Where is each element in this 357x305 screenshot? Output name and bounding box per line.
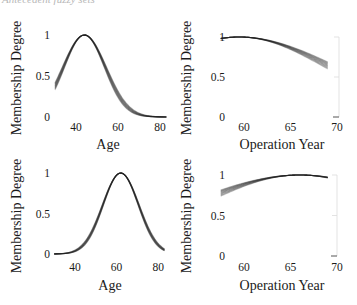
membership-curve xyxy=(54,173,164,254)
x-axis-label: Age xyxy=(98,278,121,293)
x-tick-label: 60 xyxy=(238,121,250,133)
x-tick-label: 80 xyxy=(152,261,164,273)
membership-curve xyxy=(54,173,164,254)
panel-bottom-right-operation-year: 00.51606570Operation YearMembership Degr… xyxy=(179,159,343,293)
y-tick-label: 1 xyxy=(219,31,225,43)
y-tick-label: 1 xyxy=(219,169,225,181)
y-tick-label: 1 xyxy=(44,29,50,41)
x-tick-label: 65 xyxy=(285,261,297,273)
y-tick-label: 0.5 xyxy=(211,210,226,222)
x-tick-label: 70 xyxy=(331,261,343,273)
membership-curve xyxy=(54,173,164,254)
y-axis-label: Membership Degree xyxy=(9,159,24,274)
membership-curve xyxy=(54,173,164,254)
membership-curve xyxy=(54,173,164,254)
membership-curve xyxy=(54,173,164,254)
x-tick-label: 60 xyxy=(111,261,123,273)
y-axis-label: Membership Degree xyxy=(179,159,194,274)
membership-curve xyxy=(54,173,164,254)
membership-curve xyxy=(54,173,164,254)
y-tick-label: 0 xyxy=(219,111,225,123)
x-tick-label: 40 xyxy=(70,121,82,133)
membership-curve xyxy=(54,173,164,254)
y-axis-label: Membership Degree xyxy=(9,21,24,136)
x-axis-label: Operation Year xyxy=(240,137,325,152)
y-tick-label: 0 xyxy=(219,250,225,262)
panel-top-right-operation-year: 00.51606570Operation YearMembership Degr… xyxy=(179,21,343,152)
y-tick-label: 0.5 xyxy=(211,71,226,83)
membership-curve xyxy=(54,173,164,254)
y-tick-label: 1 xyxy=(44,167,50,179)
panel-top-left-age: 00.51406080AgeMembership Degree xyxy=(9,21,166,152)
x-tick-label: 80 xyxy=(154,121,166,133)
x-tick-label: 65 xyxy=(285,121,297,133)
x-axis-label: Operation Year xyxy=(240,278,325,293)
y-tick-label: 0.5 xyxy=(36,208,51,220)
y-tick-label: 0 xyxy=(44,111,50,123)
x-tick-label: 70 xyxy=(331,121,343,133)
y-tick-label: 0.5 xyxy=(36,70,51,82)
figure: 00.51406080AgeMembership Degree 00.51606… xyxy=(0,0,357,305)
x-tick-label: 60 xyxy=(112,121,124,133)
membership-curve xyxy=(54,173,164,254)
y-tick-label: 0 xyxy=(44,248,50,260)
membership-curve xyxy=(54,173,164,254)
y-axis-label: Membership Degree xyxy=(179,21,194,136)
membership-curve xyxy=(55,35,166,117)
membership-curve xyxy=(54,173,164,254)
x-tick-label: 40 xyxy=(69,261,81,273)
membership-curve xyxy=(54,173,164,254)
panel-bottom-left-age: 00.51406080AgeMembership Degree xyxy=(9,159,164,293)
x-tick-label: 60 xyxy=(238,261,250,273)
x-axis-label: Age xyxy=(96,137,119,152)
